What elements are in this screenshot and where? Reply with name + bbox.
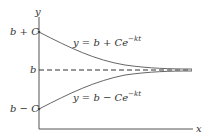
chart: y x b + C b b − C y = b + Ce−kt y = b − … — [0, 0, 210, 139]
equation-lower-exp: −kt — [128, 90, 141, 98]
ytick-b: b — [30, 65, 36, 75]
equation-upper: y = b + Ce−kt — [73, 38, 141, 48]
ytick-b-plus-c: b + C — [10, 27, 39, 37]
x-axis-label: x — [196, 124, 202, 134]
equation-upper-main: y = b + Ce — [73, 37, 128, 48]
equation-lower-main: y = b − Ce — [73, 92, 128, 103]
equation-lower: y = b − Ce−kt — [73, 93, 141, 103]
equation-upper-exp: −kt — [128, 35, 141, 43]
curve-lower — [39, 71, 192, 109]
y-axis-label: y — [35, 7, 41, 17]
ytick-b-minus-c: b − C — [10, 104, 39, 114]
